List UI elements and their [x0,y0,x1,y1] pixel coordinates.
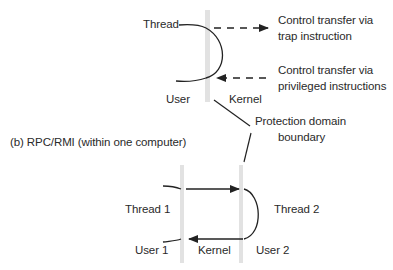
thread2-label: Thread 2 [274,203,319,216]
thread1-label: Thread 1 [125,203,170,216]
privileged-annotation-line1: Control transfer via [278,64,373,77]
kernel-label-b: Kernel [198,244,231,257]
rpc-caption: (b) RPC/RMI (within one computer) [10,136,186,149]
kernel-label: Kernel [229,93,262,106]
thread-label: Thread [143,18,179,31]
thread1-line-out [163,239,181,242]
protection-boundary-bar-a [205,10,210,102]
protection-boundary-bar-user1 [180,165,184,263]
user2-label: User 2 [256,244,289,257]
boundary-annotation-line1: Protection domain [255,115,346,128]
user1-label: User 1 [135,244,168,257]
thread1-line-in [163,186,181,189]
thread-line-in [179,25,206,28]
protection-boundary-bar-user2 [239,165,243,263]
thread2-arc [244,189,258,239]
privileged-annotation-line2: privileged instructions [278,80,386,93]
trap-annotation-line1: Control transfer via [278,14,373,27]
boundary-pointer-b [244,133,251,162]
thread-line-out [176,78,206,81]
boundary-annotation-line2: boundary [278,131,325,144]
trap-annotation-line2: trap instruction [278,30,352,43]
user-label: User [166,93,190,106]
